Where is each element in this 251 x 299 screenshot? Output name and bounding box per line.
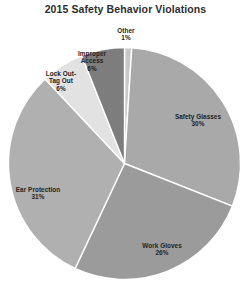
pie-chart-canvas bbox=[0, 0, 251, 299]
pie-chart-figure: 2015 Safety Behavior Violations Other 1%… bbox=[0, 0, 251, 299]
pie-slice-group bbox=[8, 48, 240, 280]
